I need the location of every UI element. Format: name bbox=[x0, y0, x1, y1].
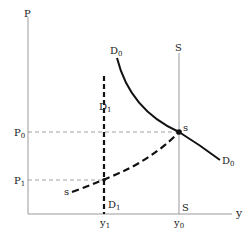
d1-top-label: D1 bbox=[99, 101, 112, 114]
equilibrium-point-s bbox=[176, 129, 182, 135]
d1-bottom-label: D1 bbox=[108, 199, 121, 212]
y0-label: y0 bbox=[173, 217, 184, 230]
x-axis-label: y bbox=[235, 207, 243, 220]
d0-top-label: D0 bbox=[110, 45, 123, 58]
equilibrium-point-p1 bbox=[102, 178, 106, 182]
s-top-label: S bbox=[175, 42, 182, 53]
p1-label: P1 bbox=[14, 175, 25, 188]
d0-end-label: D0 bbox=[222, 155, 235, 168]
demand-curve-D0 bbox=[117, 58, 220, 160]
s-left-label: s bbox=[64, 186, 69, 197]
y-axis-label: P bbox=[24, 8, 31, 19]
s-bottom-label: S bbox=[182, 202, 189, 213]
s-point-label: s bbox=[183, 122, 188, 133]
p0-label: P0 bbox=[14, 127, 25, 140]
diagram-canvas: P y P0 P1 y1 y0 D0 D0 D1 D1 S S s s bbox=[0, 0, 252, 235]
short-run-supply-curve-s bbox=[72, 132, 179, 192]
y1-label: y1 bbox=[99, 217, 110, 230]
